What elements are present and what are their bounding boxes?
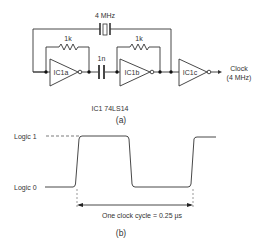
period-label: One clock cycle = 0.25 µs — [102, 212, 183, 220]
oscillator-circuit: 4 MHz 1k IC1a 1n 1k IC1b IC1c — [33, 12, 251, 125]
junction-dot — [115, 70, 118, 73]
output-arrow-icon — [218, 70, 222, 74]
r2-wire-right — [149, 47, 160, 72]
capacitor-symbol — [99, 65, 104, 79]
gate-ic1c-label: IC1c — [183, 69, 198, 76]
clock-signal-trace — [45, 136, 216, 187]
junction-dot — [87, 70, 90, 73]
junction-dot — [158, 70, 161, 73]
r1-wire-right — [78, 47, 89, 72]
logic-high-label: Logic 1 — [14, 133, 37, 141]
resistor-1-label: 1k — [64, 35, 72, 42]
ic-note: IC1 74LS14 — [92, 105, 129, 112]
arrowhead-left-icon — [77, 203, 83, 207]
gate-ic1b-label: IC1b — [125, 69, 140, 76]
capacitor-label: 1n — [98, 55, 106, 62]
gate-ic1a-label: IC1a — [54, 69, 69, 76]
crystal-label: 4 MHz — [95, 12, 116, 19]
output-label-line1: Clock — [230, 65, 248, 72]
resistor-2-label: 1k — [135, 35, 143, 42]
resistor-2-symbol — [130, 44, 149, 50]
arrowhead-right-icon — [187, 203, 193, 207]
logic-low-label: Logic 0 — [14, 184, 37, 192]
junction-dot — [169, 70, 172, 73]
clock-waveform: Logic 1 Logic 0 One clock cycle = 0.25 µ… — [14, 133, 216, 238]
diagram-canvas: 4 MHz 1k IC1a 1n 1k IC1b IC1c — [0, 0, 262, 249]
junction-dot — [44, 70, 47, 73]
resistor-1-symbol — [59, 44, 78, 50]
crystal-symbol — [100, 23, 110, 35]
caption-b: (b) — [116, 228, 127, 238]
caption-a: (a) — [116, 115, 127, 125]
output-label-line2: (4 MHz) — [227, 74, 252, 82]
